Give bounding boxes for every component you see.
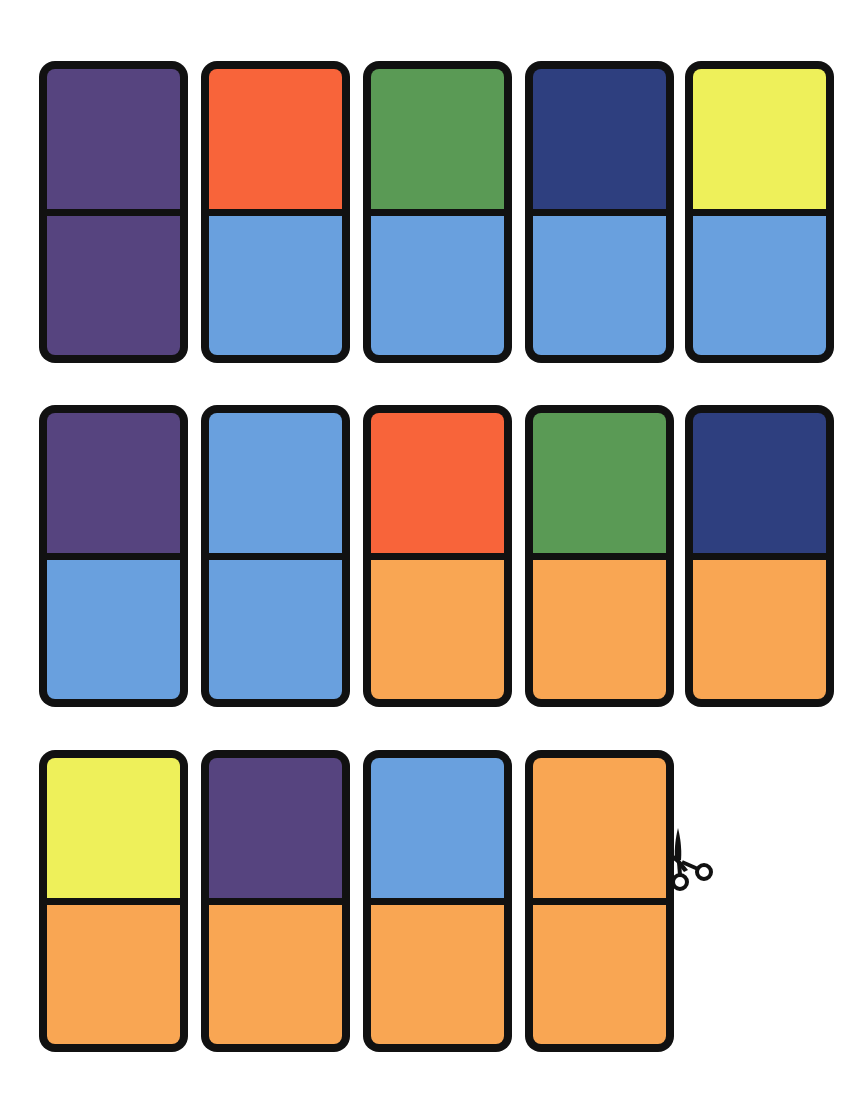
- domino-tile: [525, 405, 674, 707]
- domino-tile: [525, 61, 674, 363]
- domino-bottom-half: [371, 905, 504, 1045]
- domino-tile: [39, 750, 188, 1052]
- domino-tile: [363, 405, 512, 707]
- domino-bottom-half: [533, 560, 666, 700]
- domino-bottom-half: [693, 216, 826, 356]
- domino-top-half: [693, 69, 826, 209]
- domino-tile: [685, 61, 834, 363]
- domino-top-half: [533, 758, 666, 898]
- domino-bottom-half: [209, 216, 342, 356]
- domino-bottom-half: [371, 216, 504, 356]
- domino-tile: [685, 405, 834, 707]
- domino-bottom-half: [47, 560, 180, 700]
- domino-top-half: [209, 758, 342, 898]
- domino-top-half: [371, 413, 504, 553]
- domino-bottom-half: [533, 905, 666, 1045]
- domino-tile: [201, 750, 350, 1052]
- domino-top-half: [533, 69, 666, 209]
- domino-bottom-half: [47, 905, 180, 1045]
- domino-bottom-half: [209, 905, 342, 1045]
- domino-top-half: [371, 758, 504, 898]
- scissors-icon: [666, 826, 718, 892]
- domino-bottom-half: [693, 560, 826, 700]
- domino-top-half: [47, 69, 180, 209]
- domino-tile: [39, 405, 188, 707]
- domino-tile: [201, 405, 350, 707]
- domino-top-half: [209, 69, 342, 209]
- domino-tile: [39, 61, 188, 363]
- domino-top-half: [371, 69, 504, 209]
- domino-top-half: [209, 413, 342, 553]
- domino-top-half: [47, 758, 180, 898]
- domino-tile: [525, 750, 674, 1052]
- domino-bottom-half: [209, 560, 342, 700]
- domino-tile: [363, 61, 512, 363]
- domino-tile: [201, 61, 350, 363]
- domino-bottom-half: [533, 216, 666, 356]
- domino-bottom-half: [47, 216, 180, 356]
- domino-top-half: [47, 413, 180, 553]
- domino-bottom-half: [371, 560, 504, 700]
- domino-tile: [363, 750, 512, 1052]
- domino-top-half: [533, 413, 666, 553]
- domino-top-half: [693, 413, 826, 553]
